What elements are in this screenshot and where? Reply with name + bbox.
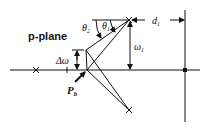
d1-label: d1 [152, 15, 160, 27]
origin-marker-icon [183, 68, 187, 72]
vector-upper-point-to-lower-pole [86, 50, 129, 110]
theta2-arc [96, 20, 101, 38]
pole-lower-icon [126, 107, 132, 113]
pb-label: Pb [67, 84, 78, 98]
delta-omega-segment [86, 50, 87, 70]
theta1-label: θ1 [102, 20, 110, 32]
pb-pointer-arrow [75, 72, 85, 82]
theta2-label: θ2 [82, 22, 90, 34]
plane-label: p-plane [28, 30, 67, 42]
vector-pb-to-lower-pole [87, 70, 129, 110]
omega1-label: ω1 [134, 41, 144, 53]
delta-omega-label: Δω [55, 55, 69, 66]
theta1-arc [110, 20, 115, 32]
p-plane-diagram: p-plane θ2 θ1 d1 ω1 Δω Pb [0, 0, 201, 129]
